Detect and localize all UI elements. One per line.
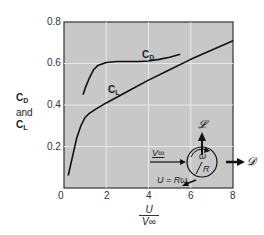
x-label-denominator: V∞ — [139, 216, 159, 228]
lift-label: 𝓛 — [198, 118, 206, 131]
y-tick-0.8: 0.8 — [47, 16, 61, 27]
x-tick-4: 4 — [146, 190, 152, 201]
curve-label-cd: CD — [142, 49, 154, 61]
x-axis-label: U V∞ — [139, 204, 159, 228]
x-tick-6: 6 — [188, 190, 194, 201]
y-tick-0.6: 0.6 — [47, 57, 61, 68]
radius-label: R — [203, 164, 210, 174]
x-tick-8: 8 — [230, 190, 236, 201]
y-axis-label: CD and CL — [16, 92, 33, 134]
curve-label-cl: CL — [108, 84, 120, 96]
y-label-cl-sub: L — [23, 124, 27, 131]
y-label-cd-sub: D — [23, 97, 28, 104]
cl-sub: L — [115, 89, 119, 96]
freestream-label: V∞ — [152, 148, 164, 158]
cd-sub: D — [149, 54, 154, 61]
y-tick-0.4: 0.4 — [47, 99, 61, 110]
y-label-and: and — [16, 107, 33, 119]
surface-speed-label: U = Rω — [157, 175, 187, 185]
drag-label: 𝓓 — [247, 155, 255, 168]
omega-label: ω — [199, 151, 206, 161]
chart-canvas — [0, 0, 264, 235]
y-tick-0.2: 0.2 — [47, 141, 61, 152]
x-label-numerator: U — [139, 204, 159, 216]
x-tick-0: 0 — [58, 190, 64, 201]
x-tick-2: 2 — [104, 190, 110, 201]
